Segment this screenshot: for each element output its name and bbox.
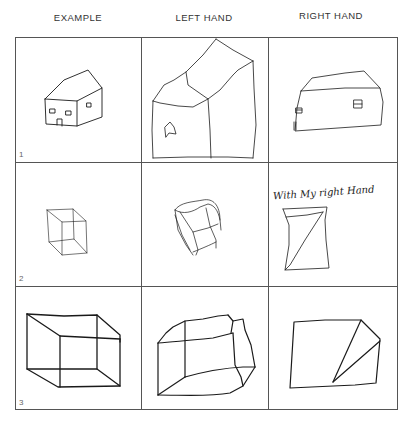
right-hand-house-drawing	[265, 30, 400, 170]
example-box-drawing	[10, 285, 145, 426]
left-hand-box-drawing	[138, 285, 273, 426]
column-header-right-hand: RIGHT HAND	[268, 10, 394, 21]
right-hand-cube-drawing	[265, 160, 400, 300]
column-header-left-hand: LEFT HAND	[141, 12, 267, 23]
example-house-drawing	[10, 30, 145, 170]
column-header-example: EXAMPLE	[15, 12, 141, 23]
right-hand-box-drawing	[265, 285, 408, 426]
left-hand-house-drawing	[138, 30, 273, 170]
example-cube-drawing	[10, 160, 145, 300]
left-hand-cube-drawing	[138, 160, 273, 300]
